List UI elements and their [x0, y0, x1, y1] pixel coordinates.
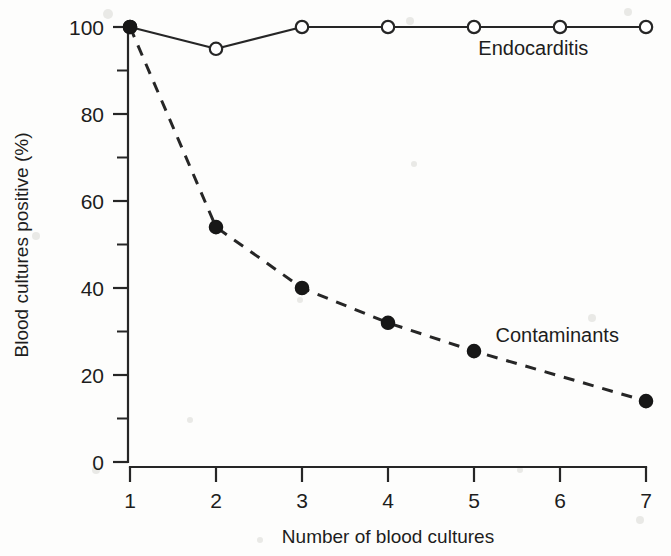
data-point-endocarditis-2 — [210, 43, 222, 55]
x-tick-label-2: 2 — [210, 489, 222, 512]
y-axis-tick-labels: 100 80 60 40 20 0 — [69, 16, 104, 474]
series-contaminants — [123, 20, 652, 407]
x-axis-tick-labels: 1 2 3 4 5 6 7 — [124, 489, 652, 512]
x-tick-label-7: 7 — [640, 489, 652, 512]
data-point-contaminants-5 — [467, 345, 480, 358]
data-point-contaminants-2 — [209, 221, 222, 234]
series-annotations: Endocarditis Contaminants — [478, 37, 619, 346]
y-tick-label-80: 80 — [81, 103, 104, 126]
data-point-endocarditis-4 — [382, 21, 394, 33]
series-label-endocarditis: Endocarditis — [478, 37, 588, 59]
series-label-contaminants: Contaminants — [496, 324, 619, 346]
y-tick-label-20: 20 — [81, 364, 104, 387]
x-tick-label-1: 1 — [124, 489, 136, 512]
x-axis: 1 2 3 4 5 6 7 Number of blood cultures — [124, 467, 652, 547]
x-tick-label-3: 3 — [296, 489, 308, 512]
x-tick-label-6: 6 — [554, 489, 566, 512]
y-tick-label-40: 40 — [81, 277, 104, 300]
x-axis-title: Number of blood cultures — [282, 526, 494, 547]
x-axis-major-ticks — [130, 467, 646, 482]
figure-canvas: 100 80 60 40 20 0 Blood cultures positiv… — [0, 0, 671, 556]
x-tick-label-4: 4 — [382, 489, 394, 512]
y-axis-title: Blood cultures positive (%) — [11, 133, 32, 358]
data-point-contaminants-1 — [123, 20, 136, 33]
x-tick-label-5: 5 — [468, 489, 480, 512]
data-point-endocarditis-6 — [554, 21, 566, 33]
line-chart: 100 80 60 40 20 0 Blood cultures positiv… — [0, 0, 671, 556]
data-point-contaminants-7 — [639, 395, 652, 408]
data-point-endocarditis-3 — [296, 21, 308, 33]
y-axis-minor-ticks — [117, 71, 128, 419]
y-tick-label-0: 0 — [92, 451, 104, 474]
y-axis: 100 80 60 40 20 0 Blood cultures positiv… — [11, 16, 128, 474]
series-layer — [123, 20, 652, 407]
y-tick-label-60: 60 — [81, 190, 104, 213]
y-tick-label-100: 100 — [69, 16, 104, 39]
data-point-contaminants-3 — [295, 281, 308, 294]
data-point-endocarditis-7 — [640, 21, 652, 33]
data-point-endocarditis-5 — [468, 21, 480, 33]
data-point-contaminants-4 — [381, 316, 394, 329]
